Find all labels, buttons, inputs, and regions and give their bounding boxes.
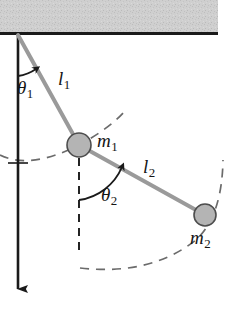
m1-symbol: m xyxy=(97,130,111,151)
theta2-symbol: θ xyxy=(101,184,110,205)
figure-canvas xyxy=(0,0,237,313)
theta1-subscript: 1 xyxy=(26,86,33,101)
vertical-reference-axis xyxy=(8,34,28,289)
mass-label-m1: m1 xyxy=(97,131,118,154)
length-label-l2: l2 xyxy=(143,157,155,180)
length-label-l1: l1 xyxy=(58,69,70,92)
double-pendulum-figure: θ1 θ2 l1 l2 m1 m2 xyxy=(0,0,237,313)
angle-label-theta2: θ2 xyxy=(101,185,117,208)
m1-subscript: 1 xyxy=(111,139,118,154)
support-ceiling xyxy=(0,0,218,35)
rod-l2 xyxy=(79,145,205,215)
m2-subscript: 2 xyxy=(204,236,211,251)
angle-label-theta1: θ1 xyxy=(17,78,33,101)
angle-arc-theta1 xyxy=(18,69,36,76)
l2-subscript: 2 xyxy=(148,165,155,180)
l1-subscript: 1 xyxy=(63,77,70,92)
mass-m2 xyxy=(194,204,216,226)
theta2-subscript: 2 xyxy=(110,193,117,208)
mass-label-m2: m2 xyxy=(190,228,211,251)
m2-symbol: m xyxy=(190,227,204,248)
mass-m1 xyxy=(67,133,91,157)
theta1-symbol: θ xyxy=(17,77,26,98)
